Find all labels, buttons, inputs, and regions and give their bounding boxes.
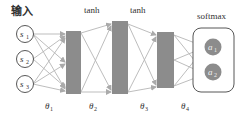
neural-network-diagram: 输入 s 1 s 2 s 3 tanh tanh softmax a 1 a 2… xyxy=(0,0,247,121)
svg-text:3: 3 xyxy=(26,84,29,90)
svg-text:s: s xyxy=(20,54,24,64)
connections-theta3 xyxy=(128,24,156,92)
output-node-a1: a 1 xyxy=(205,39,222,56)
softmax-box xyxy=(193,28,234,92)
svg-text:s: s xyxy=(20,79,24,89)
svg-text:2: 2 xyxy=(214,72,217,78)
svg-text:2: 2 xyxy=(26,59,29,65)
layer-label-tanh-1: tanh xyxy=(84,5,100,15)
connections-theta1 xyxy=(33,34,65,91)
svg-text:2: 2 xyxy=(94,106,97,112)
svg-text:a: a xyxy=(208,67,213,77)
svg-text:4: 4 xyxy=(186,106,189,112)
hidden-layer-1 xyxy=(66,31,81,94)
output-node-a2: a 2 xyxy=(205,64,222,81)
svg-text:3: 3 xyxy=(145,106,148,112)
connections-theta2 xyxy=(81,24,111,92)
svg-text:1: 1 xyxy=(214,47,217,53)
svg-text:s: s xyxy=(20,29,24,39)
weight-label-theta4: θ 4 xyxy=(181,101,189,112)
svg-text:1: 1 xyxy=(50,106,53,112)
svg-text:1: 1 xyxy=(26,34,29,40)
svg-text:a: a xyxy=(208,42,213,52)
input-node-s3: s 3 xyxy=(17,76,34,93)
input-node-s1: s 1 xyxy=(17,26,34,43)
layer-label-softmax: softmax xyxy=(197,11,226,21)
input-label: 输入 xyxy=(11,4,33,18)
hidden-layer-3 xyxy=(157,32,174,88)
weight-label-theta3: θ 3 xyxy=(140,101,148,112)
weight-label-theta2: θ 2 xyxy=(89,101,97,112)
layer-label-tanh-2: tanh xyxy=(130,5,146,15)
input-node-s2: s 2 xyxy=(17,51,34,68)
weight-label-theta1: θ 1 xyxy=(45,101,53,112)
hidden-layer-2 xyxy=(112,21,128,94)
